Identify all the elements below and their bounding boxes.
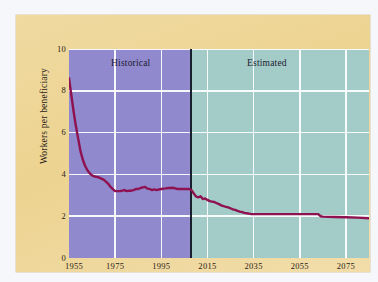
series-line-workers-per-beneficiary: [69, 49, 369, 258]
y-axis-label: Workers per beneficiary: [39, 36, 49, 196]
plot-area: [69, 49, 369, 258]
x-tick-label-1955: 1955: [65, 261, 83, 271]
x-axis-ticks: 1955197519952015203520552075: [69, 261, 369, 277]
y-tick-label-0: 0: [36, 253, 66, 263]
x-tick-label-2075: 2075: [337, 261, 355, 271]
x-tick-label-2055: 2055: [291, 261, 309, 271]
x-tick-label-1995: 1995: [152, 261, 170, 271]
x-tick-label-2015: 2015: [198, 261, 216, 271]
y-tick-label-2: 2: [36, 211, 66, 221]
annotation-historical: Historical: [111, 58, 150, 68]
annotation-estimated: Estimated: [247, 58, 287, 68]
chart-panel: Historical Estimated 0246810 19551975199…: [16, 15, 370, 272]
x-tick-label-2035: 2035: [245, 261, 263, 271]
chart-figure: Historical Estimated 0246810 19551975199…: [0, 0, 378, 282]
x-tick-label-1975: 1975: [106, 261, 124, 271]
